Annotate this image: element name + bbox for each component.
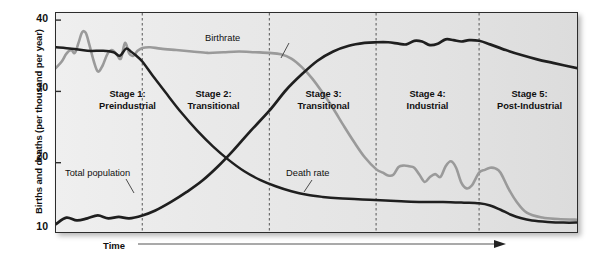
plot-area: Stage 1: Preindustrial Stage 2: Transiti… [55,12,578,233]
stage-label-5: Stage 5: Post-Industrial [458,89,578,112]
total-population-label: Total population [65,168,130,178]
stage-5-title: Stage 5: [458,89,578,101]
y-axis-tick-labels: 40 30 20 10 [22,0,48,265]
y-tick-30: 30 [24,81,48,93]
demographic-transition-chart: Births and deaths (per thousand per year… [0,0,599,265]
plot-background [56,13,578,233]
stage-5-subtitle: Post-Industrial [458,101,578,113]
chart-canvas [56,13,578,233]
y-tick-10: 10 [24,220,48,232]
birthrate-label: Birthrate [205,33,240,43]
x-axis-title: Time [103,240,125,251]
x-axis-arrow-head [494,240,506,248]
x-axis-arrow [138,236,508,252]
y-tick-40: 40 [24,12,48,24]
death-rate-label: Death rate [286,168,329,178]
y-tick-20: 20 [24,150,48,162]
